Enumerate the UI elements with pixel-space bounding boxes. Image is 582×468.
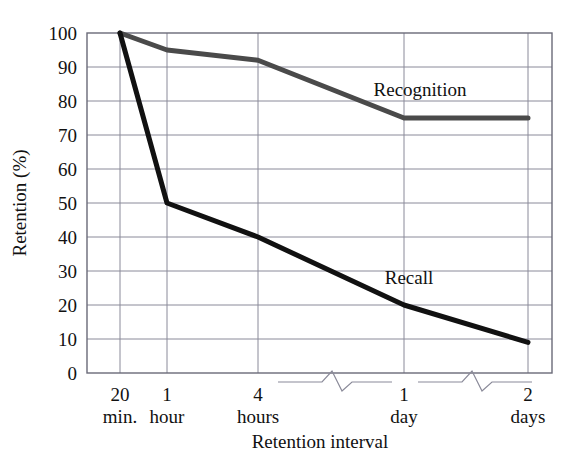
y-tick-label: 60 (58, 159, 77, 180)
y-tick-label: 80 (58, 91, 77, 112)
x-axis-tick-labels: 20min.1hour4hours1day2days (103, 384, 546, 427)
x-tick-label-bottom: days (511, 406, 546, 427)
series-label-recognition: Recognition (374, 79, 467, 100)
y-tick-label: 10 (58, 329, 77, 350)
x-tick-label-top: 2 (523, 384, 533, 405)
x-tick-label-top: 4 (253, 384, 263, 405)
retention-chart-figure: 0102030405060708090100 20min.1hour4hours… (0, 0, 582, 468)
series-label-recall: Recall (385, 267, 434, 288)
x-tick-label-bottom: hours (237, 406, 279, 427)
x-tick-label-top: 1 (162, 384, 172, 405)
axis-break-mark (278, 371, 392, 391)
x-tick-label-top: 1 (399, 384, 409, 405)
y-tick-label: 70 (58, 125, 77, 146)
y-tick-label: 30 (58, 261, 77, 282)
chart-canvas: 0102030405060708090100 20min.1hour4hours… (0, 0, 582, 468)
y-tick-label: 40 (58, 227, 77, 248)
x-tick-label-top: 20 (111, 384, 130, 405)
x-tick-label-bottom: day (390, 406, 418, 427)
axis-break-mark (418, 371, 532, 391)
y-axis-title: Retention (%) (9, 149, 31, 256)
y-tick-label: 0 (68, 363, 78, 384)
y-axis-tick-labels: 0102030405060708090100 (49, 23, 78, 384)
x-tick-label-bottom: min. (103, 406, 137, 427)
y-tick-label: 20 (58, 295, 77, 316)
y-tick-label: 100 (49, 23, 78, 44)
x-axis-title: Retention interval (252, 431, 389, 452)
y-tick-label: 90 (58, 57, 77, 78)
x-tick-label-bottom: hour (150, 406, 186, 427)
y-tick-label: 50 (58, 193, 77, 214)
